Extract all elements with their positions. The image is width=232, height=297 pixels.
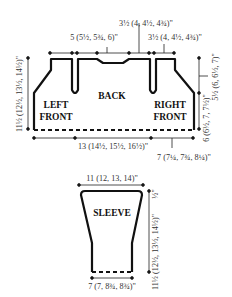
piece-label-right-front-2: FRONT [153,112,187,122]
piece-label-left-front-2: FRONT [39,112,73,122]
dim-bottom-front: 7 (7¼, 7¾, 8¼)" [157,153,211,162]
left-height-dimension [27,57,30,131]
dim-sleeve-cap: ½" [151,189,160,198]
dim-bottom-back: 13 (14½, 15½, 16½)" [78,142,148,151]
dim-left-height: 11½ (12½, 13½, 14½)" [15,56,24,132]
dim-sleeve-length: 11½ (12½, 13½, 14½)" [151,214,160,290]
dim-right-armhole: 5½ (6, 6½, 7)" [211,53,220,101]
schematic-canvas: BACK LEFT FRONT RIGHT FRONT 3½ (4, 4½, 4… [0,0,232,297]
sleeve-cuff-dimension [91,277,134,280]
dim-top-right-shoulder: 3½ (4, 4½, 4¾)" [148,33,202,42]
piece-label-back: BACK [98,91,126,101]
dim-top-neck: 3½ (4, 4½, 4¾)" [119,19,173,28]
sleeve-outline [81,191,142,272]
dim-sleeve-top: 11 (12, 13, 14)" [86,174,137,183]
dim-top-left-shoulder: 5 (5½, 5¾, 6)" [70,33,118,42]
dim-sleeve-cuff: 7 (7, 8¾, 8¾)" [88,282,136,291]
piece-label-sleeve: SLEEVE [93,208,131,218]
sleeve-length-dimension [148,190,151,274]
sleeve-top-dimension [78,184,145,187]
piece-label-left-front-1: LEFT [44,100,69,110]
dim-right-lower: 6 (6½, 7, 7½)" [202,94,211,142]
piece-label-right-front-1: RIGHT [154,100,186,110]
